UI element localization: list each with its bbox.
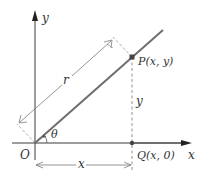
point-q: [130, 141, 134, 145]
x-axis-label: x: [188, 148, 195, 162]
point-q-label: Q(x, 0): [137, 149, 175, 162]
r-extension-p: [113, 37, 132, 57]
angle-label: θ: [51, 128, 58, 141]
x-axis-arrow-icon: [181, 140, 192, 146]
point-p-label: P(x, y): [137, 55, 173, 68]
y-axis-arrow-icon: [32, 10, 38, 21]
y-dimension-label: y: [135, 94, 143, 108]
r-label: r: [63, 73, 70, 87]
r-extension-o: [17, 124, 35, 143]
polar-coordinates-diagram: y x O P(x, y) Q(x, 0) θ r x y: [0, 0, 206, 172]
x-axis: [12, 140, 192, 146]
y-axis-label: y: [41, 11, 49, 25]
x-dimension-label: x: [78, 157, 85, 171]
ray-op: [35, 30, 163, 143]
point-p: [130, 55, 135, 60]
origin-label: O: [20, 148, 30, 162]
y-axis: [32, 10, 38, 160]
